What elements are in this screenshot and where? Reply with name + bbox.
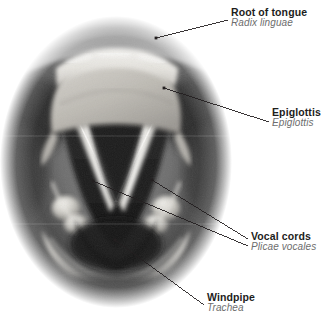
label-vocal-cords-latin: Plicae vocales	[251, 242, 316, 252]
label-epiglottis: Epiglottis Epiglottis	[272, 107, 321, 128]
larynx-image	[0, 12, 232, 312]
larynx-anatomy-figure: Root of tongue Radix linguae Epiglottis …	[0, 0, 321, 326]
label-root-of-tongue-latin: Radix linguae	[231, 18, 307, 28]
label-root-of-tongue-english: Root of tongue	[231, 7, 307, 18]
label-windpipe-latin: Trachea	[207, 303, 255, 313]
label-epiglottis-english: Epiglottis	[272, 107, 321, 118]
label-windpipe-english: Windpipe	[207, 292, 255, 303]
label-root-of-tongue: Root of tongue Radix linguae	[231, 7, 307, 28]
laryngoscopic-photograph	[0, 12, 232, 312]
label-windpipe: Windpipe Trachea	[207, 292, 255, 313]
label-vocal-cords: Vocal cords Plicae vocales	[251, 231, 316, 252]
label-epiglottis-latin: Epiglottis	[272, 118, 321, 128]
label-vocal-cords-english: Vocal cords	[251, 231, 316, 242]
